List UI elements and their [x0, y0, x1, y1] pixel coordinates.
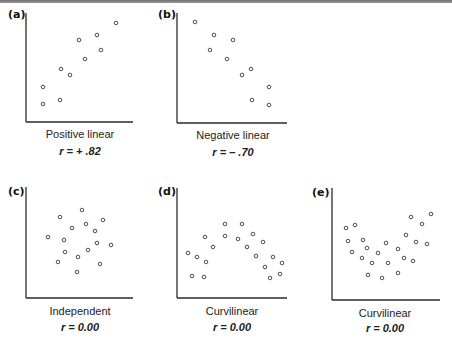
data-point-marker: [250, 98, 254, 102]
data-point-marker: [420, 222, 424, 226]
data-point-marker: [384, 241, 388, 245]
data-point-marker: [63, 250, 67, 254]
data-point-marker: [366, 273, 370, 277]
data-point-marker: [41, 102, 45, 106]
data-point-marker: [186, 251, 190, 255]
scatter-plot-d: [150, 170, 300, 302]
data-point-marker: [380, 276, 384, 280]
data-point-marker: [98, 262, 102, 266]
correlation-b: r = – .70: [163, 146, 303, 158]
scatter-panel-d: (d) Curvilinear r = 0.00: [150, 170, 300, 342]
data-point-marker: [249, 67, 253, 71]
data-point-marker: [376, 251, 380, 255]
data-point-marker: [278, 272, 282, 276]
data-point-marker: [223, 234, 227, 238]
plot-title-b: Negative linear: [163, 129, 303, 141]
data-point-marker: [109, 243, 113, 247]
data-point-marker: [240, 73, 244, 77]
data-point-marker: [353, 223, 357, 227]
data-point-marker: [80, 208, 84, 212]
scatter-panel-c: (c) Independent r = 0.00: [0, 170, 150, 342]
data-point-marker: [46, 235, 50, 239]
data-point-marker: [56, 260, 60, 264]
data-point-marker: [101, 218, 105, 222]
correlation-a: r = + .82: [10, 145, 150, 157]
data-point-marker: [346, 239, 350, 243]
data-point-marker: [268, 276, 272, 280]
data-point-marker: [76, 255, 80, 259]
data-point-marker: [350, 250, 354, 254]
data-point-marker: [251, 232, 255, 236]
data-point-marker: [83, 57, 87, 61]
data-point-marker: [41, 85, 45, 89]
data-point-marker: [77, 38, 81, 42]
data-point-marker: [396, 271, 400, 275]
data-point-marker: [211, 245, 215, 249]
data-point-marker: [370, 261, 374, 265]
data-point-marker: [70, 226, 74, 230]
data-point-marker: [429, 212, 433, 216]
data-point-marker: [99, 48, 103, 52]
data-point-marker: [59, 67, 63, 71]
data-point-marker: [193, 20, 197, 24]
data-point-marker: [236, 237, 240, 241]
plot-title-a: Positive linear: [10, 128, 150, 140]
data-point-marker: [365, 246, 369, 250]
scatter-plot-b: [150, 0, 300, 130]
data-point-marker: [58, 215, 62, 219]
data-point-marker: [411, 259, 415, 263]
data-point-marker: [75, 270, 79, 274]
data-point-marker: [208, 48, 212, 52]
data-point-marker: [414, 240, 418, 244]
data-point-marker: [267, 103, 271, 107]
data-point-marker: [203, 235, 207, 239]
scatter-plot-a: [0, 0, 150, 130]
plot-title-d: Curvilinear: [162, 305, 302, 317]
data-point-marker: [425, 242, 429, 246]
data-point-marker: [62, 238, 66, 242]
data-point-marker: [84, 222, 88, 226]
correlation-c: r = 0.00: [10, 321, 150, 333]
data-point-marker: [223, 222, 227, 226]
data-point-marker: [402, 256, 406, 260]
data-point-marker: [404, 233, 408, 237]
data-point-marker: [240, 222, 244, 226]
data-point-marker: [58, 98, 62, 102]
data-point-marker: [261, 240, 265, 244]
data-point-marker: [245, 245, 249, 249]
data-point-marker: [361, 238, 365, 242]
scatter-panel-e: (e) Curvilinear r = 0.00: [300, 170, 452, 342]
correlation-d: r = 0.00: [162, 321, 302, 333]
scatter-plot-e: [300, 170, 452, 304]
plot-title-c: Independent: [10, 305, 150, 317]
scatter-panel-a: (a) Positive linear r = + .82: [0, 0, 150, 170]
data-point-marker: [202, 275, 206, 279]
data-point-marker: [267, 85, 271, 89]
data-point-marker: [93, 229, 97, 233]
data-point-marker: [386, 261, 390, 265]
data-point-marker: [86, 248, 90, 252]
data-point-marker: [225, 57, 229, 61]
data-point-marker: [95, 241, 99, 245]
correlation-e: r = 0.00: [315, 322, 452, 334]
scatter-panel-b: (b) Negative linear r = – .70: [150, 0, 300, 170]
data-point-marker: [254, 254, 258, 258]
data-point-marker: [204, 260, 208, 264]
data-point-marker: [360, 256, 364, 260]
data-point-marker: [195, 255, 199, 259]
data-point-marker: [280, 261, 284, 265]
data-point-marker: [271, 255, 275, 259]
data-point-marker: [95, 33, 99, 37]
data-point-marker: [396, 247, 400, 251]
data-point-marker: [409, 215, 413, 219]
data-point-marker: [231, 38, 235, 42]
data-point-marker: [263, 265, 267, 269]
data-point-marker: [344, 226, 348, 230]
plot-title-e: Curvilinear: [315, 307, 452, 319]
data-point-marker: [68, 73, 72, 77]
scatter-plot-c: [0, 170, 150, 302]
data-point-marker: [212, 33, 216, 37]
data-point-marker: [190, 274, 194, 278]
data-point-marker: [114, 21, 118, 25]
